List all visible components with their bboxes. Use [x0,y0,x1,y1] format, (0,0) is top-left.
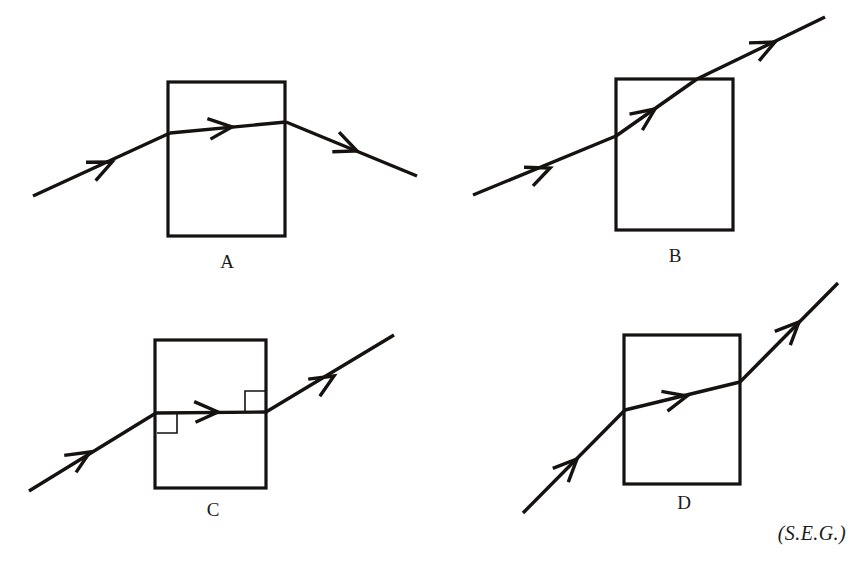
panel-label-a: A [220,251,234,272]
ray-diagram-figure: ABCD (S.E.G.) [0,0,868,566]
panel-label-c: C [207,499,220,520]
credit-label: (S.E.G.) [778,522,846,545]
figure-background [0,0,868,566]
internal-ray-c [156,412,266,413]
panel-label-d: D [677,492,691,513]
figure-canvas: ABCD (S.E.G.) [0,0,868,566]
panel-label-b: B [669,245,682,266]
